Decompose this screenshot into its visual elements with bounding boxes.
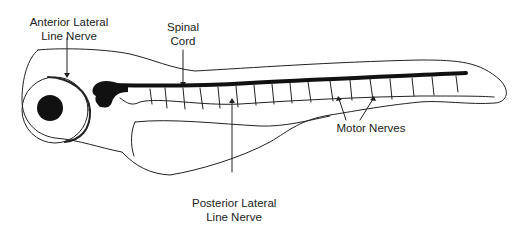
eye-pupil (37, 95, 63, 121)
label-anterior-lateral-line-nerve: Anterior Lateral Line Nerve (26, 15, 112, 43)
label-line: Line Nerve (192, 210, 276, 224)
label-line: Spinal (163, 20, 203, 34)
posterior-lateral-line (120, 96, 494, 104)
label-line: Posterior Lateral (192, 196, 276, 210)
label-motor-nerves: Motor Nerves (336, 121, 406, 135)
body-outline (22, 49, 506, 175)
brain-mass (92, 81, 128, 107)
label-posterior-lateral-line-nerve: Posterior Lateral Line Nerve (192, 196, 276, 224)
zebrafish-nerve-diagram: Anterior Lateral Line Nerve Spinal Cord … (0, 0, 522, 229)
label-spinal-cord: Spinal Cord (163, 20, 203, 48)
yolk-outline (131, 116, 330, 156)
label-line: Line Nerve (26, 29, 112, 43)
label-line: Anterior Lateral (26, 15, 112, 29)
pointer-motor-1 (339, 99, 346, 120)
label-line: Cord (163, 34, 203, 48)
label-line: Motor Nerves (336, 121, 406, 135)
